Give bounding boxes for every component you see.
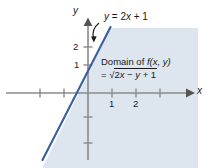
line-equation-eq: = 2 [109, 11, 126, 22]
radicand: 2x − y + 1 [114, 68, 157, 81]
domain-region-shading [43, 28, 199, 168]
x-axis-label: x [197, 86, 202, 96]
domain-function-args: (x, y) [150, 56, 171, 67]
line-equation-tail: + 1 [131, 11, 148, 22]
domain-equals: = [101, 69, 109, 80]
figure-canvas [0, 0, 210, 168]
domain-annotation-line-2: = √2x − y + 1 [101, 68, 171, 81]
y-tick-label-2: 2 [73, 42, 78, 52]
y-tick-label-1: 1 [74, 60, 79, 70]
y-axis-label: y [73, 6, 78, 16]
radicand-constant: + 1 [140, 69, 156, 80]
math-figure: y x 2 1 1 2 y = 2x + 1 Domain of f(x, y)… [0, 0, 210, 168]
radical-expression: √2x − y + 1 [109, 68, 157, 81]
radicand-minus: − [124, 69, 135, 80]
x-tick-label-2: 2 [133, 99, 138, 109]
x-tick-label-1: 1 [109, 99, 114, 109]
domain-prefix: Domain of [101, 56, 147, 67]
line-equation-label: y = 2x + 1 [104, 12, 148, 22]
y-axis-arrowhead [84, 18, 93, 27]
leader-arrowhead [91, 36, 97, 42]
domain-annotation: Domain of f(x, y) = √2x − y + 1 [101, 56, 171, 81]
domain-annotation-line-1: Domain of f(x, y) [101, 56, 171, 68]
